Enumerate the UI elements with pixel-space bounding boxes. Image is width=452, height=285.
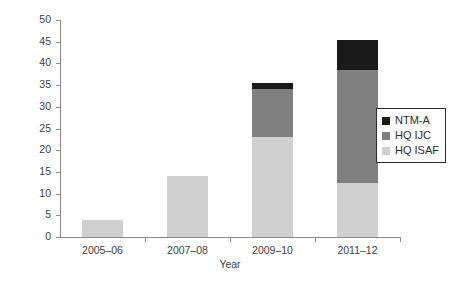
legend-label: HQ IJC <box>395 130 431 141</box>
y-tick-mark <box>56 20 60 21</box>
y-tick-mark <box>56 107 60 108</box>
y-tick-label: 5 <box>45 208 51 220</box>
legend-label: NTM-A <box>395 115 430 126</box>
bar-segment[interactable] <box>337 183 378 237</box>
y-tick-mark <box>56 194 60 195</box>
y-tick-mark <box>56 85 60 86</box>
y-tick-label: 40 <box>39 56 51 68</box>
x-tick-mark <box>315 237 316 242</box>
x-axis-title: Year <box>60 258 400 270</box>
y-tick-label: 15 <box>39 165 51 177</box>
bar-segment[interactable] <box>252 89 293 137</box>
chart-legend: NTM-A HQ IJC HQ ISAF <box>376 108 446 163</box>
x-tick-label: 2007–08 <box>167 244 208 256</box>
y-tick-label: 50 <box>39 13 51 25</box>
bar-group[interactable] <box>82 20 123 237</box>
bar-chart: No. of Officers 05101520253035404550 200… <box>0 0 452 285</box>
y-tick-mark <box>56 237 60 238</box>
bar-group[interactable] <box>337 20 378 237</box>
legend-label: HQ ISAF <box>395 145 439 156</box>
x-tick-mark <box>145 237 146 242</box>
legend-swatch-icon-hq-ijc <box>382 132 390 140</box>
bar-segment[interactable] <box>252 83 293 90</box>
legend-item-ntm-a: NTM-A <box>382 113 439 128</box>
y-tick-mark <box>56 63 60 64</box>
bar-group[interactable] <box>252 20 293 237</box>
x-tick-mark <box>230 237 231 242</box>
bar-segment[interactable] <box>167 176 208 237</box>
bar-segment[interactable] <box>337 70 378 183</box>
y-tick-mark <box>56 129 60 130</box>
bar-segment[interactable] <box>337 40 378 70</box>
plot-area: 05101520253035404550 <box>60 20 400 237</box>
y-tick-label: 20 <box>39 143 51 155</box>
y-tick-mark <box>56 42 60 43</box>
y-tick-label: 25 <box>39 122 51 134</box>
y-tick-label: 10 <box>39 187 51 199</box>
x-tick-label: 2011–12 <box>337 244 377 256</box>
y-tick-label: 45 <box>39 35 51 47</box>
bar-segment[interactable] <box>252 137 293 237</box>
y-tick-label: 35 <box>39 78 51 90</box>
y-tick-mark <box>56 215 60 216</box>
y-tick-label: 0 <box>45 230 51 242</box>
x-tick-label: 2009–10 <box>252 244 293 256</box>
bar-group[interactable] <box>167 20 208 237</box>
x-tick-mark <box>400 237 401 242</box>
legend-swatch-icon-hq-isaf <box>382 147 390 155</box>
legend-swatch-icon-ntm-a <box>382 117 390 125</box>
y-tick-mark <box>56 150 60 151</box>
x-tick-label: 2005–06 <box>82 244 123 256</box>
legend-item-hq-isaf: HQ ISAF <box>382 143 439 158</box>
y-tick-mark <box>56 172 60 173</box>
bar-segment[interactable] <box>82 220 123 237</box>
legend-item-hq-ijc: HQ IJC <box>382 128 439 143</box>
y-tick-label: 30 <box>39 100 51 112</box>
